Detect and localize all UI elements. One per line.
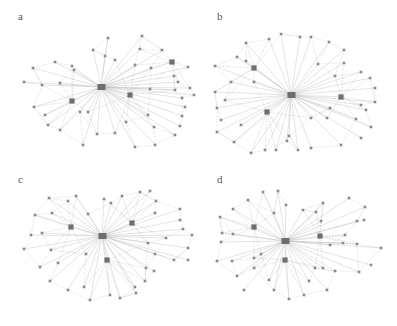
edge: [48, 125, 60, 130]
edge: [370, 78, 375, 88]
edge: [261, 254, 269, 280]
network-node: [343, 62, 346, 65]
nodes: [214, 33, 377, 155]
edge: [237, 43, 246, 57]
network-node: [153, 126, 156, 129]
network-node: [179, 219, 182, 222]
network-graph-a: [0, 0, 198, 163]
network-node: [220, 119, 223, 122]
edge: [361, 102, 375, 105]
edge: [58, 236, 102, 263]
edge: [120, 287, 135, 298]
edge: [254, 268, 274, 290]
network-node: [174, 89, 177, 92]
edge: [88, 95, 130, 112]
network-node: [216, 107, 219, 110]
edge: [49, 196, 76, 198]
edge: [188, 235, 192, 248]
edge: [72, 66, 101, 87]
edge: [52, 201, 68, 213]
edge: [102, 236, 146, 268]
network-node: [153, 270, 156, 273]
network-node: [233, 141, 236, 144]
network-node: [187, 259, 190, 262]
network-node: [302, 209, 305, 212]
network-node: [187, 66, 190, 69]
hub-node: [129, 220, 134, 225]
edge: [24, 236, 102, 249]
hub-node: [104, 257, 109, 262]
edge: [107, 243, 148, 260]
network-node: [297, 149, 300, 152]
edge: [130, 95, 148, 115]
network-node: [187, 247, 190, 250]
edge: [248, 200, 285, 241]
edge: [359, 248, 381, 272]
network-node: [273, 212, 276, 215]
network-node: [326, 289, 329, 292]
network-node: [220, 241, 223, 244]
edge: [370, 78, 375, 102]
hub-node: [264, 109, 269, 114]
central-hub-node: [288, 92, 296, 98]
edge: [248, 200, 274, 213]
edge: [251, 112, 267, 153]
network-node: [104, 55, 107, 58]
edge: [120, 293, 136, 298]
network-node: [193, 94, 196, 97]
network-node: [273, 289, 276, 292]
network-node: [310, 147, 313, 150]
edge: [146, 254, 155, 268]
edge: [291, 72, 361, 95]
network-node: [191, 234, 194, 237]
network-node: [374, 87, 377, 90]
network-node: [285, 204, 288, 207]
network-node: [134, 146, 137, 149]
network-graph-c: [0, 163, 198, 326]
edge: [285, 203, 323, 241]
edge: [24, 82, 101, 87]
central-hub-node: [282, 238, 290, 244]
edge: [60, 101, 72, 130]
network-node: [236, 56, 239, 59]
network-node: [144, 280, 147, 283]
edge: [51, 227, 71, 250]
network-node: [374, 101, 377, 104]
network-node: [57, 262, 60, 265]
network-node: [48, 197, 51, 200]
network-node: [216, 260, 219, 263]
network-node: [299, 36, 302, 39]
edge: [93, 50, 101, 87]
edge: [140, 49, 162, 50]
edge: [24, 249, 40, 267]
network-node: [114, 59, 117, 62]
network-node: [243, 289, 246, 292]
edge: [155, 201, 156, 213]
edge: [60, 112, 80, 130]
network-node: [141, 35, 144, 38]
edge: [215, 66, 254, 68]
network-node: [221, 232, 224, 235]
edge: [215, 57, 237, 66]
edge: [93, 38, 108, 50]
edge: [35, 213, 52, 215]
network-node: [216, 131, 219, 134]
network-node: [314, 267, 317, 270]
edge: [267, 95, 291, 112]
network-node: [268, 38, 271, 41]
edge: [320, 236, 343, 243]
network-node: [363, 219, 366, 222]
edge: [291, 88, 375, 95]
edge: [107, 260, 120, 298]
edge: [71, 227, 86, 254]
network-node: [51, 212, 54, 215]
network-node: [355, 118, 358, 121]
network-node: [134, 64, 137, 67]
network-node: [107, 37, 110, 40]
edge: [217, 261, 237, 276]
edge: [42, 233, 51, 250]
edge: [107, 260, 135, 287]
edge: [49, 198, 68, 201]
edge: [88, 112, 97, 134]
network-panel-d: d: [199, 163, 397, 326]
